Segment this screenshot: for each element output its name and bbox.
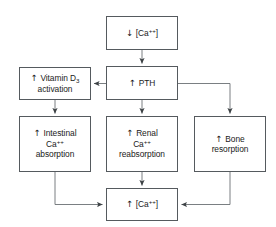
intestinal-line3: absorption [36, 149, 75, 159]
calcium-homeostasis-diagram: ↓ [Ca++] ↑ PTH ↑ Vitamin D3activation ↑ … [0, 0, 276, 227]
ca-high-bracket-close: ] [156, 199, 158, 209]
ca-high-bracket-open: [Ca [136, 199, 149, 209]
up-arrow-icon: ↑ [34, 128, 42, 138]
node-intestinal-calcium-absorption-label: ↑ IntestinalCa++absorption [32, 128, 79, 159]
node-decreased-serum-calcium: ↓ [Ca++] [106, 16, 178, 50]
up-arrow-icon: ↑ [215, 134, 223, 144]
vitamind-line2: activation [38, 84, 73, 94]
renal-line2: Ca [133, 139, 144, 149]
pth-text: PTH [139, 78, 156, 88]
up-arrow-icon: ↑ [126, 128, 134, 138]
node-bone-resorption-label: ↑ Boneresorption [210, 134, 251, 155]
bone-line2: resorption [212, 144, 249, 154]
vitamind-subscript: 3 [76, 77, 79, 84]
edge-bone-to-ca-high [182, 172, 231, 205]
node-vitamin-d3-activation-label: ↑ Vitamin D3activation [29, 73, 82, 94]
node-renal-calcium-reabsorption: ↑ RenalCa++reabsorption [106, 116, 178, 172]
node-decreased-serum-calcium-label: ↓ [Ca++] [124, 28, 160, 38]
ca-low-bracket-open: [Ca [136, 28, 149, 38]
up-arrow-icon: ↑ [126, 199, 134, 209]
intestinal-line2: Ca [46, 139, 57, 149]
bone-line1: Bone [225, 134, 244, 144]
node-intestinal-calcium-absorption: ↑ IntestinalCa++absorption [19, 116, 91, 172]
node-increased-serum-calcium: ↑ [Ca++] [106, 188, 178, 221]
up-arrow-icon: ↑ [129, 78, 137, 88]
up-arrow-icon: ↑ [31, 73, 39, 83]
node-bone-resorption: ↑ Boneresorption [194, 116, 266, 172]
edge-pth-to-bone [178, 84, 230, 114]
edge-intestinal-to-ca-high [55, 172, 103, 205]
intestinal-charge: ++ [57, 138, 64, 145]
ca-high-charge: ++ [149, 198, 156, 205]
down-arrow-icon: ↓ [126, 28, 134, 38]
node-increased-pth-label: ↑ PTH [127, 78, 158, 88]
node-vitamin-d3-activation: ↑ Vitamin D3activation [19, 67, 91, 100]
ca-low-charge: ++ [149, 27, 156, 34]
node-renal-calcium-reabsorption-label: ↑ RenalCa++reabsorption [117, 128, 167, 159]
renal-line3: reabsorption [119, 149, 165, 159]
node-increased-serum-calcium-label: ↑ [Ca++] [124, 199, 160, 209]
renal-charge: ++ [144, 138, 151, 145]
ca-low-bracket-close: ] [156, 28, 158, 38]
vitamind-text: Vitamin D [40, 73, 76, 83]
node-increased-pth: ↑ PTH [106, 66, 178, 100]
